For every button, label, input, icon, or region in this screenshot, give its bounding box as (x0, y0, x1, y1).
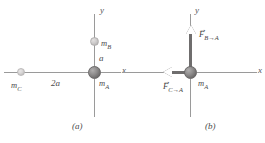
panel-b-mass-a (184, 66, 197, 79)
panel-b-x-axis-label: x (258, 66, 262, 75)
force-b-on-a-label: →FB→A (199, 30, 219, 41)
panel-a-mass-c (17, 68, 25, 76)
panel-b-caption: (b) (205, 122, 216, 131)
panel-a: y x mC mB mA a 2a (a) (0, 0, 133, 143)
force-c-on-a-label: →FC→A (163, 82, 183, 93)
panel-a-caption: (a) (72, 122, 83, 131)
panel-a-y-axis-label: y (100, 6, 104, 15)
force-b-on-a-vector-arrow: → (199, 26, 207, 34)
panel-a-mass-b-label: mB (101, 39, 111, 50)
force-b-on-a-arrowhead (186, 25, 196, 34)
force-c-on-a-arrowhead (163, 67, 172, 77)
panel-a-mass-a-label: mA (99, 79, 109, 90)
force-c-on-a-vector-arrow: → (163, 78, 171, 86)
panel-b-y-axis-label: y (195, 6, 199, 15)
panel-a-distance-a-label: a (99, 54, 104, 63)
physics-figure: y x mC mB mA a 2a (a) y x →FB→A →FC→A (0, 0, 265, 143)
panel-b-mass-a-label: mA (198, 79, 208, 90)
panel-a-mass-c-label: mC (11, 81, 21, 92)
panel-a-distance-2a-label: 2a (51, 79, 60, 88)
panel-a-x-axis-label: x (122, 66, 126, 75)
panel-b: y x →FB→A →FC→A mA (b) (133, 0, 265, 143)
panel-a-mass-b (90, 37, 99, 46)
